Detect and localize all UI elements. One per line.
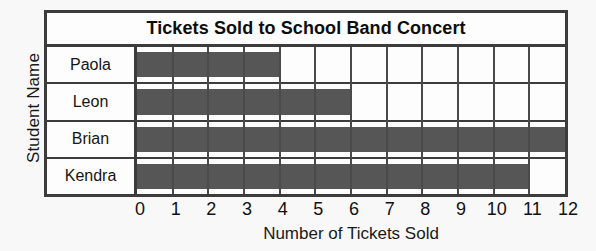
- x-axis-tick-labels: 0123456789101112: [0, 199, 596, 225]
- y-axis-title: Student Name: [24, 18, 44, 198]
- bar-row-paola: [137, 47, 565, 84]
- x-tick-label-6: 6: [334, 199, 374, 220]
- bar-rows: [137, 47, 565, 194]
- x-tick-label-0: 0: [120, 199, 160, 220]
- category-label-kendra: Kendra: [47, 159, 134, 194]
- x-axis-title: Number of Tickets Sold: [134, 224, 568, 244]
- chart-body: Paola Leon Brian Kendra: [47, 47, 565, 194]
- bar-kendra: [137, 164, 529, 189]
- category-label-leon: Leon: [47, 84, 134, 121]
- bar-chart-figure: Student Name Tickets Sold to School Band…: [0, 0, 596, 251]
- bar-paola: [137, 52, 280, 77]
- chart-title: Tickets Sold to School Band Concert: [146, 18, 465, 39]
- bar-row-brian: [137, 122, 565, 159]
- category-label-paola: Paola: [47, 47, 134, 84]
- x-tick-label-10: 10: [477, 199, 517, 220]
- x-tick-label-11: 11: [512, 199, 552, 220]
- x-tick-label-4: 4: [263, 199, 303, 220]
- chart-frame: Tickets Sold to School Band Concert Paol…: [44, 10, 568, 197]
- bar-leon: [137, 89, 351, 114]
- category-label-column: Paola Leon Brian Kendra: [47, 47, 137, 194]
- bar-row-leon: [137, 84, 565, 121]
- plot-area: [137, 47, 565, 194]
- x-tick-label-3: 3: [227, 199, 267, 220]
- x-tick-label-9: 9: [441, 199, 481, 220]
- x-tick-label-12: 12: [548, 199, 588, 220]
- x-tick-label-8: 8: [405, 199, 445, 220]
- x-tick-label-7: 7: [370, 199, 410, 220]
- bar-brian: [137, 127, 565, 152]
- x-tick-label-5: 5: [298, 199, 338, 220]
- x-tick-label-2: 2: [191, 199, 231, 220]
- bar-row-kendra: [137, 159, 565, 194]
- x-tick-label-1: 1: [156, 199, 196, 220]
- chart-title-band: Tickets Sold to School Band Concert: [47, 13, 565, 47]
- category-label-brian: Brian: [47, 122, 134, 159]
